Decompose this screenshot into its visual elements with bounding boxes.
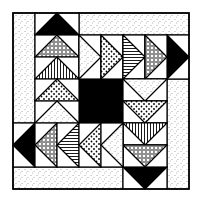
top-strip	[79, 13, 189, 35]
bottom-strip	[13, 167, 123, 189]
quilt-block	[0, 0, 202, 212]
left-strip	[13, 13, 35, 123]
right-strip	[167, 79, 189, 189]
center-square	[79, 79, 123, 123]
